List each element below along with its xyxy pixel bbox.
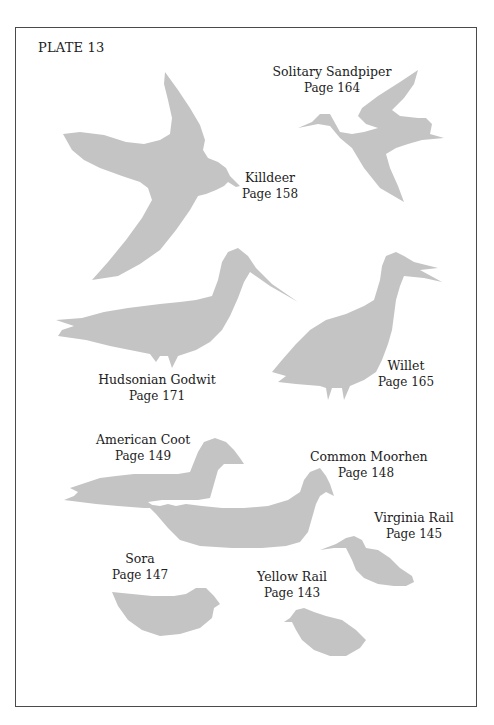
- bird-page: Page 164: [260, 80, 404, 96]
- bird-name: Virginia Rail: [366, 510, 462, 526]
- label-common-moorhen: Common Moorhen Page 148: [310, 449, 422, 481]
- bird-name: Yellow Rail: [254, 569, 330, 585]
- label-virginia-rail: Virginia Rail Page 145: [366, 510, 462, 542]
- yellow-rail-silhouette: [284, 608, 366, 656]
- label-yellow-rail: Yellow Rail Page 143: [254, 569, 330, 601]
- bird-page: Page 165: [376, 374, 436, 390]
- bird-page: Page 148: [310, 465, 422, 481]
- label-killdeer: Killdeer Page 158: [238, 170, 302, 202]
- label-solitary-sandpiper: Solitary Sandpiper Page 164: [260, 64, 404, 96]
- bird-page: Page 147: [112, 567, 168, 583]
- label-hudsonian-godwit: Hudsonian Godwit Page 171: [96, 372, 218, 404]
- bird-page: Page 143: [254, 585, 330, 601]
- bird-name: Common Moorhen: [310, 449, 422, 465]
- bird-name: Hudsonian Godwit: [96, 372, 218, 388]
- bird-page: Page 171: [96, 388, 218, 404]
- virginia-rail-silhouette: [320, 536, 414, 586]
- sora-silhouette: [112, 588, 220, 636]
- bird-name: Killdeer: [238, 170, 302, 186]
- label-sora: Sora Page 147: [112, 551, 168, 583]
- hudsonian-godwit-silhouette: [56, 248, 298, 368]
- killdeer-silhouette: [63, 72, 240, 280]
- bird-page: Page 149: [96, 448, 190, 464]
- label-willet: Willet Page 165: [376, 358, 436, 390]
- bird-name: Solitary Sandpiper: [260, 64, 404, 80]
- bird-name: Willet: [376, 358, 436, 374]
- bird-page: Page 145: [366, 526, 462, 542]
- bird-page: Page 158: [238, 186, 302, 202]
- label-american-coot: American Coot Page 149: [96, 432, 190, 464]
- bird-name: American Coot: [96, 432, 190, 448]
- bird-name: Sora: [112, 551, 168, 567]
